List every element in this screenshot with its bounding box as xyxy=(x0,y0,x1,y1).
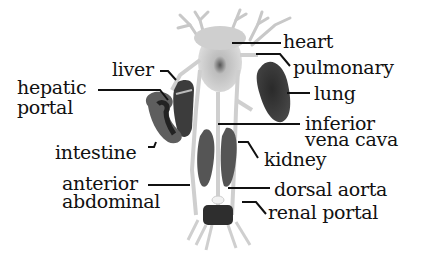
leader-renal-portal xyxy=(242,202,266,214)
label-inferior-vena-cava-2: vena cava xyxy=(305,130,398,148)
circulatory-diagram: heart pulmonary lung inferior vena cava … xyxy=(0,0,421,254)
lung-organ xyxy=(257,62,291,122)
label-pulmonary: pulmonary xyxy=(293,58,394,76)
label-kidney: kidney xyxy=(264,150,326,168)
label-hepatic-portal-2: portal xyxy=(17,98,73,116)
label-dorsal-aorta: dorsal aorta xyxy=(274,180,387,198)
label-anterior-abdominal-2: abdominal xyxy=(62,192,160,210)
leader-kidney xyxy=(238,142,258,158)
kidney-left-organ xyxy=(197,129,214,186)
leader-intestine xyxy=(148,142,156,147)
label-lung: lung xyxy=(314,84,356,102)
label-liver: liver xyxy=(112,60,154,78)
label-intestine: intestine xyxy=(55,143,136,161)
renal-portal-organ xyxy=(203,205,233,225)
label-hepatic-portal-1: hepatic xyxy=(17,78,86,96)
label-renal-portal: renal portal xyxy=(268,203,378,221)
leader-liver xyxy=(160,71,176,80)
label-heart: heart xyxy=(283,32,333,50)
